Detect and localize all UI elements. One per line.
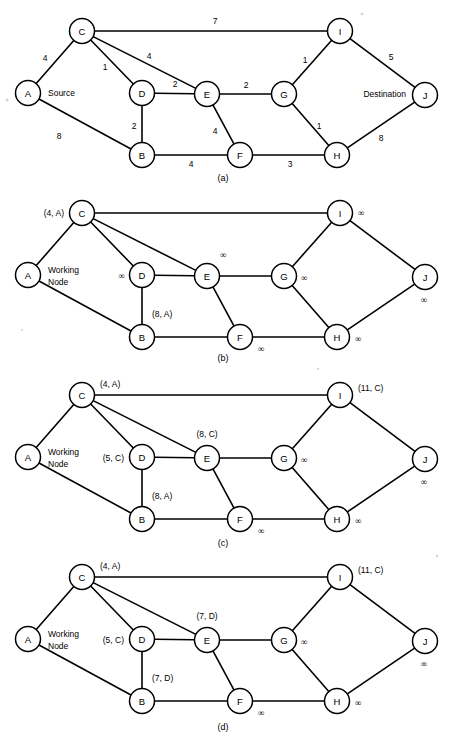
node-a[interactable]: A (16, 81, 41, 106)
caption-c: (c) (218, 538, 229, 548)
node-j-label: J (423, 272, 428, 283)
node-h[interactable]: H (325, 325, 350, 350)
node-c-label: C (79, 390, 86, 401)
node-a-label: A (25, 452, 32, 463)
node-h[interactable]: H (325, 143, 350, 168)
node-c[interactable]: C (70, 565, 95, 590)
node-b[interactable]: B (130, 325, 155, 350)
node-g[interactable]: G (272, 82, 297, 107)
edge-i-j (350, 39, 415, 88)
panel-c-label-i: (11, C) (358, 383, 384, 393)
edge-i-j (350, 585, 415, 634)
node-i[interactable]: I (328, 201, 353, 226)
panel-a-weight-e-f: 4 (213, 126, 218, 136)
edge-a-c (36, 222, 74, 265)
edge-g-i (292, 586, 331, 630)
node-d[interactable]: D (130, 263, 155, 288)
edge-h-j (347, 648, 414, 694)
node-e[interactable]: E (195, 628, 220, 653)
edge-e-f (213, 651, 234, 690)
edge-g-h (292, 103, 329, 145)
panel-a-weight-h-j: 8 (379, 133, 384, 143)
edge-e-f (213, 287, 234, 326)
node-a[interactable]: A (16, 445, 41, 470)
node-f[interactable]: F (228, 143, 253, 168)
edge-d-e (154, 93, 194, 94)
node-i[interactable]: I (328, 565, 353, 590)
panel-d-edges (36, 577, 415, 701)
panel-b-label-f: ∞ (258, 344, 264, 354)
node-j[interactable]: J (413, 629, 438, 654)
node-b[interactable]: B (130, 507, 155, 532)
node-i-label: I (339, 572, 342, 583)
node-g[interactable]: G (272, 628, 297, 653)
node-f[interactable]: F (228, 507, 253, 532)
node-h-label: H (334, 332, 341, 343)
edge-e-f (213, 469, 234, 508)
panel-c-label-d: (5, C) (103, 453, 124, 463)
node-i-label: I (339, 26, 342, 37)
panel-a-weight-f-h: 3 (288, 159, 293, 169)
scan-speck-1 (361, 13, 364, 16)
node-e[interactable]: E (195, 446, 220, 471)
edge-g-i (292, 404, 331, 448)
panel-c-working-node-line1: Working (48, 447, 79, 457)
node-g-label: G (280, 89, 287, 100)
caption-b: (b) (218, 353, 229, 363)
panel-a-weight-g-i: 1 (303, 55, 308, 65)
panel-b-working-node-line1: Working (48, 265, 79, 275)
panel-d-label-c: (4, A) (100, 561, 120, 571)
node-g-label: G (280, 635, 287, 646)
edge-i-j (350, 403, 415, 452)
panel-b-label-g: ∞ (301, 273, 307, 283)
node-d[interactable]: D (130, 81, 155, 106)
panel-c-label-b: (8, A) (152, 491, 172, 501)
node-f[interactable]: F (228, 689, 253, 714)
node-a[interactable]: A (16, 627, 41, 652)
node-i[interactable]: I (328, 19, 353, 44)
node-b[interactable]: B (130, 143, 155, 168)
node-b[interactable]: B (130, 689, 155, 714)
panel-c-label-g: ∞ (301, 455, 307, 465)
node-c-label: C (79, 208, 86, 219)
panel-b-label-h: ∞ (355, 334, 361, 344)
edge-i-j (350, 221, 415, 270)
node-j[interactable]: J (413, 83, 438, 108)
node-f[interactable]: F (228, 325, 253, 350)
panel-c-edges (36, 395, 415, 519)
node-c[interactable]: C (70, 201, 95, 226)
node-a-label: A (25, 634, 32, 645)
edge-a-b (39, 645, 131, 695)
node-j[interactable]: J (413, 447, 438, 472)
panel-b-label-i: ∞ (358, 208, 364, 218)
edge-g-i (292, 40, 331, 84)
node-i[interactable]: I (328, 383, 353, 408)
panel-a-weight-a-b: 8 (57, 131, 62, 141)
node-d[interactable]: D (130, 445, 155, 470)
node-d-label: D (139, 452, 146, 463)
node-e-label: E (204, 271, 210, 282)
node-h[interactable]: H (325, 689, 350, 714)
node-e[interactable]: E (195, 264, 220, 289)
node-d[interactable]: D (130, 627, 155, 652)
node-b-label: B (139, 514, 145, 525)
edge-a-b (39, 99, 131, 149)
node-a-label: A (25, 270, 32, 281)
node-c[interactable]: C (70, 19, 95, 44)
panel-a-weight-a-c: 4 (43, 53, 48, 63)
scan-speck-0 (6, 99, 9, 102)
node-h[interactable]: H (325, 507, 350, 532)
node-a-label: A (25, 88, 32, 99)
node-g[interactable]: G (272, 446, 297, 471)
panel-b-label-j: ∞ (421, 295, 427, 305)
node-a[interactable]: A (16, 263, 41, 288)
node-g[interactable]: G (272, 264, 297, 289)
edge-d-e (154, 457, 194, 458)
node-c[interactable]: C (70, 383, 95, 408)
panel-c-label-e: (8, C) (196, 429, 217, 439)
panel-b-nodes: ABCDEFGHIJ (16, 201, 438, 350)
node-e[interactable]: E (195, 82, 220, 107)
node-j-label: J (423, 454, 428, 465)
edge-a-b (39, 281, 131, 331)
node-j[interactable]: J (413, 265, 438, 290)
